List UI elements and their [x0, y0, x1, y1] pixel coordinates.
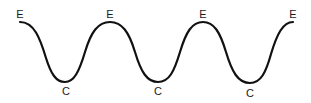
trough-label-3: C	[246, 88, 254, 99]
wave-path	[20, 22, 293, 83]
crest-label-1: E	[16, 9, 23, 20]
crest-label-4: E	[289, 9, 296, 20]
trough-label-2: C	[154, 86, 162, 97]
trough-label-1: C	[62, 86, 70, 97]
crest-label-3: E	[199, 9, 206, 20]
crest-label-2: E	[106, 9, 113, 20]
wave-diagram: E C E C E C E	[0, 0, 311, 103]
